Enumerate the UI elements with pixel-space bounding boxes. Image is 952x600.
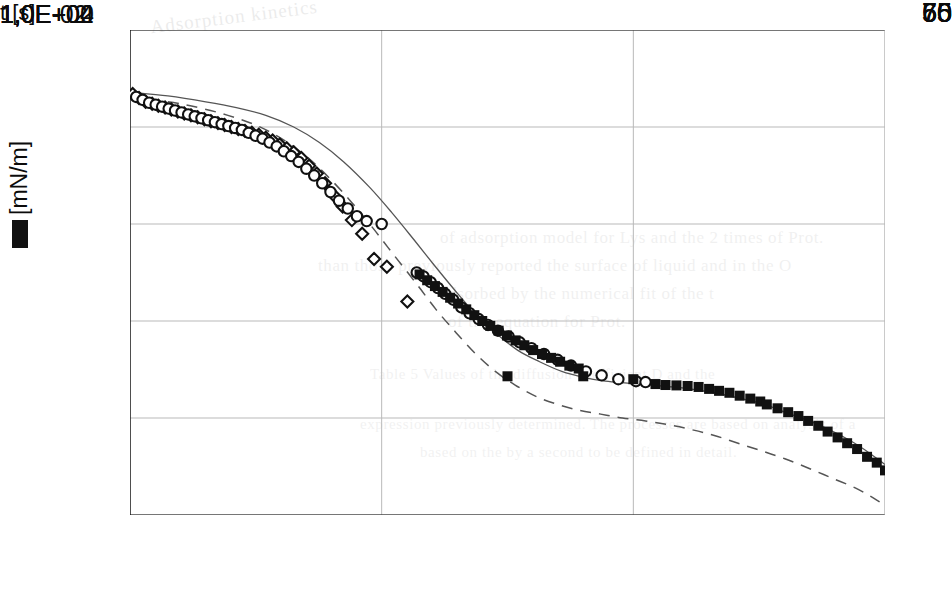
data-point-square (724, 388, 734, 398)
data-point-square (852, 444, 862, 454)
data-point-square (511, 335, 521, 345)
data-point-square (735, 391, 745, 401)
data-point-diamond (368, 253, 380, 265)
data-point-square (671, 380, 681, 390)
data-point-square (578, 371, 588, 381)
data-point-square (537, 349, 547, 359)
data-point-circle (325, 187, 335, 197)
data-point-square (880, 465, 885, 475)
data-point-square (762, 399, 772, 409)
data-point-square (502, 331, 512, 341)
data-point-square (694, 382, 704, 392)
data-point-square (793, 411, 803, 421)
data-point-square (528, 345, 538, 355)
data-point-square (555, 357, 565, 367)
data-point-square (546, 353, 556, 363)
series-open-diamonds (130, 88, 413, 308)
x-axis-title: t [s] (0, 0, 35, 26)
data-point-square (783, 407, 793, 417)
data-point-circle (376, 219, 386, 229)
data-point-square (650, 379, 660, 389)
series-open-circles (131, 92, 651, 388)
data-point-square (862, 452, 872, 462)
data-point-square (714, 386, 724, 396)
data-point-square (519, 340, 529, 350)
data-point-square (564, 361, 574, 371)
chart-canvas (130, 30, 885, 515)
data-point-square (803, 416, 813, 426)
data-point-square (503, 371, 513, 381)
redacted-gamma-symbol (12, 220, 28, 248)
data-point-circle (334, 196, 344, 206)
data-point-square (704, 384, 714, 394)
data-point-square (842, 438, 852, 448)
data-point-square (833, 432, 843, 442)
data-point-diamond (401, 296, 413, 308)
data-point-square (823, 427, 833, 437)
data-point-circle (640, 377, 650, 387)
data-point-square (628, 374, 638, 384)
data-point-circle (317, 178, 327, 188)
data-point-circle (613, 374, 623, 384)
data-point-diamond (381, 261, 393, 273)
y-axis-title: [mN/m] (6, 141, 33, 248)
plot-area (130, 30, 885, 515)
data-point-square (773, 403, 783, 413)
figure-root: Adsorption kinetics of adsorption model … (0, 0, 952, 600)
data-point-diamond (356, 228, 368, 240)
y-axis-units: [mN/m] (6, 141, 33, 215)
series-filled-squares (415, 269, 885, 475)
data-point-square (745, 394, 755, 404)
data-point-circle (343, 203, 353, 213)
data-point-square (683, 381, 693, 391)
data-point-square (660, 380, 670, 390)
data-point-circle (361, 216, 371, 226)
y-tick-label: 50 (892, 0, 952, 27)
data-point-square (813, 421, 823, 431)
data-point-circle (596, 370, 606, 380)
dashed-fit-curve (130, 98, 885, 505)
